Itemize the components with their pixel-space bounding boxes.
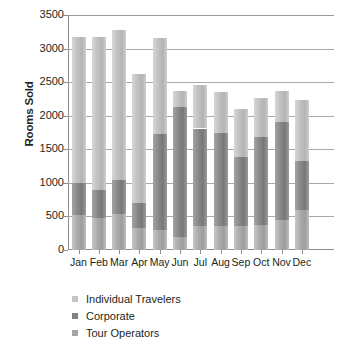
bar-segment[interactable] bbox=[92, 190, 106, 218]
bar-segment[interactable] bbox=[72, 183, 86, 215]
bar-segment[interactable] bbox=[153, 38, 167, 134]
bar-column[interactable] bbox=[112, 30, 126, 250]
y-axis-tick-label: 2500 bbox=[20, 76, 64, 87]
bar-segment[interactable] bbox=[112, 180, 126, 214]
x-axis-tick-mark bbox=[79, 250, 80, 254]
legend-label: Tour Operators bbox=[86, 327, 159, 339]
chart-legend: Individual TravelersCorporateTour Operat… bbox=[72, 290, 332, 341]
bar-segment[interactable] bbox=[295, 210, 309, 250]
bar-segment[interactable] bbox=[295, 100, 309, 161]
x-axis-tick-mark bbox=[180, 250, 181, 254]
x-axis-tick-mark bbox=[241, 250, 242, 254]
bar-segment[interactable] bbox=[254, 225, 268, 251]
x-axis-tick-mark bbox=[221, 250, 222, 254]
y-axis-tick-label: 500 bbox=[20, 210, 64, 221]
bar-column[interactable] bbox=[153, 38, 167, 250]
bar-column[interactable] bbox=[173, 91, 187, 250]
gridline bbox=[68, 82, 334, 83]
bar-segment[interactable] bbox=[234, 157, 248, 226]
y-axis-tick-label: 1500 bbox=[20, 143, 64, 154]
y-axis-tick-mark bbox=[63, 250, 68, 251]
legend-item[interactable]: Tour Operators bbox=[72, 324, 332, 341]
x-axis-tick-mark bbox=[282, 250, 283, 254]
bar-segment[interactable] bbox=[92, 37, 106, 189]
legend-swatch-icon bbox=[72, 330, 78, 336]
gridline bbox=[68, 49, 334, 50]
legend-label: Individual Travelers bbox=[86, 293, 181, 305]
bar-segment[interactable] bbox=[132, 74, 146, 203]
bar-segment[interactable] bbox=[234, 226, 248, 250]
y-axis-tick-label: 1000 bbox=[20, 177, 64, 188]
x-axis-tick-mark bbox=[200, 250, 201, 254]
plot-top-border bbox=[68, 15, 334, 16]
bar-segment[interactable] bbox=[72, 37, 86, 183]
y-axis-tick-label: 3000 bbox=[20, 43, 64, 54]
bar-segment[interactable] bbox=[295, 161, 309, 209]
bar-segment[interactable] bbox=[153, 230, 167, 250]
bar-segment[interactable] bbox=[254, 98, 268, 137]
plot-area bbox=[68, 15, 334, 250]
bar-segment[interactable] bbox=[193, 85, 207, 128]
bar-segment[interactable] bbox=[254, 137, 268, 224]
legend-swatch-icon bbox=[72, 313, 78, 319]
x-axis-tick-mark bbox=[119, 250, 120, 254]
y-axis-tick-label: 3500 bbox=[20, 9, 64, 20]
y-axis-tick-label: 2000 bbox=[20, 110, 64, 121]
bar-column[interactable] bbox=[275, 91, 289, 250]
legend-label: Corporate bbox=[86, 310, 135, 322]
bar-segment[interactable] bbox=[112, 214, 126, 250]
bar-segment[interactable] bbox=[214, 226, 228, 250]
legend-item[interactable]: Corporate bbox=[72, 307, 332, 324]
bar-column[interactable] bbox=[295, 100, 309, 250]
x-axis-tick-mark bbox=[261, 250, 262, 254]
bar-segment[interactable] bbox=[173, 91, 187, 107]
bar-segment[interactable] bbox=[132, 228, 146, 250]
bar-segment[interactable] bbox=[214, 92, 228, 134]
x-axis-tick-mark bbox=[99, 250, 100, 254]
x-axis-tick-mark bbox=[139, 250, 140, 254]
bar-column[interactable] bbox=[234, 109, 248, 250]
x-axis-tick-label: Dec bbox=[287, 256, 317, 268]
bar-segment[interactable] bbox=[92, 218, 106, 250]
bar-segment[interactable] bbox=[234, 109, 248, 157]
bar-column[interactable] bbox=[214, 92, 228, 250]
bar-segment[interactable] bbox=[72, 215, 86, 250]
bar-segment[interactable] bbox=[275, 122, 289, 220]
bar-segment[interactable] bbox=[193, 129, 207, 226]
x-axis-tick-mark bbox=[160, 250, 161, 254]
bar-column[interactable] bbox=[72, 37, 86, 251]
bar-segment[interactable] bbox=[173, 237, 187, 250]
bar-column[interactable] bbox=[193, 85, 207, 250]
bar-segment[interactable] bbox=[153, 134, 167, 230]
bar-segment[interactable] bbox=[275, 91, 289, 122]
bar-segment[interactable] bbox=[132, 203, 146, 228]
y-axis-tick-label: 0 bbox=[20, 244, 64, 255]
legend-swatch-icon bbox=[72, 296, 78, 302]
bar-segment[interactable] bbox=[173, 107, 187, 237]
bar-column[interactable] bbox=[254, 98, 268, 250]
bar-segment[interactable] bbox=[214, 133, 228, 226]
bar-segment[interactable] bbox=[193, 226, 207, 250]
bar-column[interactable] bbox=[132, 74, 146, 250]
bar-segment[interactable] bbox=[112, 30, 126, 179]
stacked-bar-chart: Rooms Sold 0500100015002000250030003500 … bbox=[0, 0, 344, 345]
y-axis-line bbox=[68, 15, 69, 250]
bar-column[interactable] bbox=[92, 37, 106, 250]
bar-segment[interactable] bbox=[275, 220, 289, 250]
x-axis-tick-mark bbox=[302, 250, 303, 254]
legend-item[interactable]: Individual Travelers bbox=[72, 290, 332, 307]
